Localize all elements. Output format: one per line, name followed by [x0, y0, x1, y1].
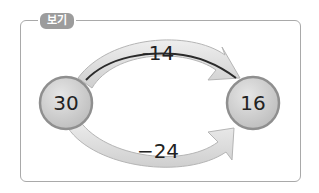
diagram: 30 16 -14 −24	[0, 0, 319, 193]
start-value: 30	[53, 91, 78, 115]
top-arrow-label: -14	[142, 41, 175, 65]
end-value: 16	[240, 91, 265, 115]
bottom-arrow-label: −24	[137, 139, 179, 163]
